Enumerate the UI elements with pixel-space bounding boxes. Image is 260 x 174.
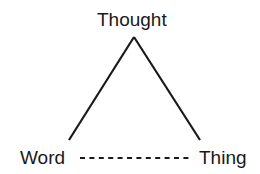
node-label-thing: Thing <box>199 148 247 167</box>
node-label-word: Word <box>20 148 65 167</box>
node-label-thought: Thought <box>97 10 167 29</box>
semiotic-triangle-diagram: Thought Word Thing <box>0 0 260 174</box>
edge-word-thought <box>69 37 134 140</box>
edge-thought-thing <box>134 37 200 140</box>
